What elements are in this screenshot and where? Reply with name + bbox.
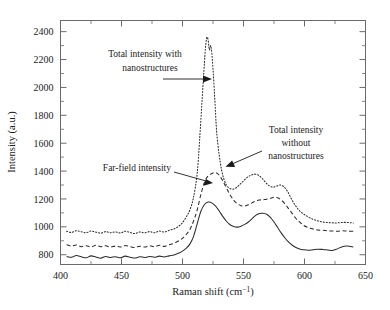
annotation-farfield-label: Far-field intensity [103,163,171,173]
x-tick-label: 400 [53,270,68,281]
raman-spectrum-figure: 400450500550600650 800100012001400160018… [0,0,390,310]
y-axis-tick-labels: 80010001200140016001800200022002400 [34,26,54,260]
chart-svg: 400450500550600650 800100012001400160018… [0,0,390,310]
y-tick-label: 1800 [34,110,54,121]
y-tick-label: 2400 [34,26,54,37]
y-tick-label: 1600 [34,138,54,149]
annotation-without-line3: nanostructures [268,151,324,161]
figure-background [0,0,390,310]
y-tick-label: 800 [39,249,54,260]
annotation-without-line2: without [281,138,310,148]
y-axis-title: Intensity (a.u.) [6,111,18,173]
x-tick-label: 600 [297,270,312,281]
x-tick-label: 550 [236,270,251,281]
y-tick-label: 1000 [34,221,54,232]
y-tick-label: 1400 [34,166,54,177]
y-tick-label: 2200 [34,54,54,65]
x-tick-label: 650 [358,270,373,281]
annotation-with-line1: Total intensity with [108,49,182,59]
x-axis-title: Raman shift (cm−1) [172,285,254,298]
y-tick-label: 2000 [34,82,54,93]
annotation-without-line1: Total intensity [269,125,324,135]
x-tick-label: 500 [175,270,190,281]
annotation-with-line2: nanostructures [122,63,178,73]
y-tick-label: 1200 [34,194,54,205]
x-tick-label: 450 [114,270,129,281]
